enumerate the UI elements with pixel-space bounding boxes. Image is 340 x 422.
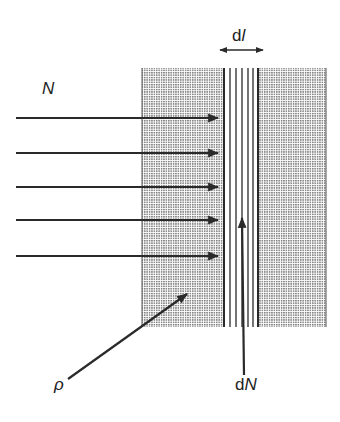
absorber-left-region [142, 68, 224, 327]
thickness-var: l [241, 26, 245, 45]
attenuation-diagram: dl N ρ dN [0, 0, 340, 422]
density-pointer-arrow [68, 294, 187, 379]
absorber-right-region [258, 68, 326, 327]
diagram-svg [0, 0, 340, 422]
absorbed-var: N [244, 375, 256, 394]
absorbed-label: dN [235, 376, 257, 393]
density-label: ρ [54, 376, 64, 393]
incident-beam-label: N [42, 80, 54, 97]
thin-layer-lines [224, 68, 258, 327]
absorbed-pointer-arrow [242, 218, 244, 375]
thickness-label: dl [232, 27, 245, 44]
